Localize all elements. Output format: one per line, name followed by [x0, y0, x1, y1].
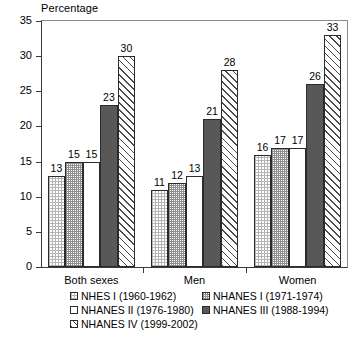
bar-slot: 28: [221, 21, 239, 267]
y-axis-tick-label: 30: [20, 49, 32, 61]
x-axis-category-label: Men: [184, 274, 205, 286]
y-axis-tick-label: 35: [20, 14, 32, 26]
legend-swatch-icon: [202, 306, 210, 314]
plot-area: 131515233011121321281617172633: [42, 21, 347, 267]
bar-slot: 23: [100, 21, 118, 267]
legend-row: NHANES II (1976-1980)NHANES III (1988-19…: [70, 303, 350, 317]
legend-label: NHANES III (1988-1994): [213, 304, 329, 316]
chart-legend: NHES I (1960-1962)NHANES I (1971-1974)NH…: [70, 289, 350, 331]
bar-value-label: 28: [224, 56, 236, 69]
x-axis-category-label: Both sexes: [64, 274, 118, 286]
legend-entry[interactable]: NHANES III (1988-1994): [202, 304, 329, 316]
bar-value-label: 26: [309, 70, 321, 83]
bar[interactable]: 30: [118, 56, 136, 267]
bar-group-women: 1617172633: [254, 21, 342, 267]
legend-swatch-icon: [70, 320, 78, 328]
y-axis-tick-label: 20: [20, 119, 32, 131]
bar-value-label: 15: [68, 148, 80, 161]
bar[interactable]: 28: [221, 70, 239, 267]
bar[interactable]: 13: [186, 176, 204, 267]
x-axis-separator-tick: [143, 268, 144, 273]
bar-value-label: 15: [86, 148, 98, 161]
bar-slot: 17: [289, 21, 307, 267]
bar-value-label: 21: [206, 105, 218, 118]
legend-swatch-icon: [202, 292, 210, 300]
y-axis-tick-label: 0: [26, 260, 32, 272]
bar-slot: 26: [306, 21, 324, 267]
bar-slot: 15: [83, 21, 101, 267]
legend-label: NHANES I (1971-1974): [213, 290, 323, 302]
bar-value-label: 16: [257, 141, 269, 154]
bar-value-label: 12: [171, 169, 183, 182]
y-axis-tick-label: 15: [20, 155, 32, 167]
bar[interactable]: 15: [65, 162, 83, 267]
bar-slot: 12: [168, 21, 186, 267]
legend-row: NHANES IV (1999-2002): [70, 317, 350, 331]
bar-slot: 30: [118, 21, 136, 267]
legend-entry[interactable]: NHANES I (1971-1974): [202, 290, 323, 302]
bar-slot: 15: [65, 21, 83, 267]
legend-swatch-icon: [70, 306, 78, 314]
bar[interactable]: 11: [151, 190, 169, 267]
y-axis: 05101520253035: [0, 20, 41, 268]
y-axis-tick-label: 10: [20, 190, 32, 202]
bar[interactable]: 16: [254, 155, 272, 267]
y-axis-tick-label: 25: [20, 84, 32, 96]
bar-value-label: 13: [51, 162, 63, 175]
bar[interactable]: 23: [100, 105, 118, 267]
bar[interactable]: 17: [289, 148, 307, 267]
bar[interactable]: 13: [48, 176, 66, 267]
x-axis-separator-tick: [246, 268, 247, 273]
bar[interactable]: 21: [203, 119, 221, 267]
bar-slot: 21: [203, 21, 221, 267]
bar-slot: 17: [271, 21, 289, 267]
bar-slot: 16: [254, 21, 272, 267]
bar-value-label: 30: [121, 42, 133, 55]
bar-group-both-sexes: 1315152330: [48, 21, 136, 267]
bar-value-label: 23: [103, 91, 115, 104]
legend-entry[interactable]: NHANES IV (1999-2002): [70, 318, 202, 330]
legend-label: NHANES IV (1999-2002): [81, 318, 198, 330]
y-axis-tick-label: 5: [26, 225, 32, 237]
legend-swatch-icon: [70, 292, 78, 300]
bar-slot: 11: [151, 21, 169, 267]
bar[interactable]: 17: [271, 148, 289, 267]
legend-label: NHES I (1960-1962): [81, 290, 176, 302]
bar[interactable]: 12: [168, 183, 186, 267]
legend-entry[interactable]: NHES I (1960-1962): [70, 290, 202, 302]
bar-value-label: 33: [327, 21, 339, 34]
bar-slot: 13: [48, 21, 66, 267]
bar[interactable]: 15: [83, 162, 101, 267]
legend-label: NHANES II (1976-1980): [81, 304, 194, 316]
bar-group-men: 1112132128: [151, 21, 239, 267]
bar-value-label: 17: [292, 134, 304, 147]
bar-slot: 33: [324, 21, 342, 267]
bar-value-label: 11: [154, 176, 165, 189]
bar-value-label: 13: [189, 162, 201, 175]
x-axis-category-label: Women: [279, 274, 317, 286]
bar[interactable]: 26: [306, 84, 324, 267]
bar-value-label: 17: [274, 134, 286, 147]
bar[interactable]: 33: [324, 35, 342, 267]
page-title: Percentage: [41, 2, 98, 14]
legend-entry[interactable]: NHANES II (1976-1980): [70, 304, 202, 316]
bar-slot: 13: [186, 21, 204, 267]
legend-row: NHES I (1960-1962)NHANES I (1971-1974): [70, 289, 350, 303]
